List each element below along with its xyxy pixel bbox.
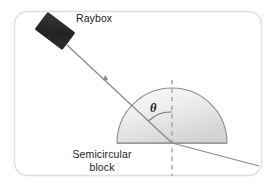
raybox-label: Raybox bbox=[76, 12, 112, 25]
block-label-line2: block bbox=[89, 161, 114, 173]
figure-root: Raybox Semicircular block θ bbox=[0, 0, 276, 189]
block-label-line1: Semicircular bbox=[73, 148, 132, 160]
semicircular-block-label: Semicircular block bbox=[60, 148, 144, 173]
angle-theta-label: θ bbox=[150, 101, 157, 116]
